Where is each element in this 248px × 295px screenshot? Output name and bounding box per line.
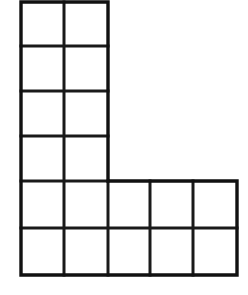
grid-cell xyxy=(64,46,108,91)
grid-cell xyxy=(108,181,150,228)
grid-cell xyxy=(64,91,108,136)
grid-cell xyxy=(21,228,64,275)
grid-cell xyxy=(21,181,64,228)
grid-cell xyxy=(21,136,64,181)
polyomino-grid-svg xyxy=(0,0,248,295)
grid-cell xyxy=(64,181,108,228)
grid-cell xyxy=(150,181,193,228)
grid-cell xyxy=(64,228,108,275)
grid-cell xyxy=(64,136,108,181)
grid-cell xyxy=(150,228,193,275)
grid-cell xyxy=(64,2,108,46)
grid-cell xyxy=(21,2,64,46)
grid-cell xyxy=(21,46,64,91)
grid-cell xyxy=(193,181,237,228)
figure-canvas xyxy=(0,0,248,295)
grid-cell xyxy=(108,228,150,275)
grid-cell xyxy=(193,228,237,275)
grid-cell xyxy=(21,91,64,136)
